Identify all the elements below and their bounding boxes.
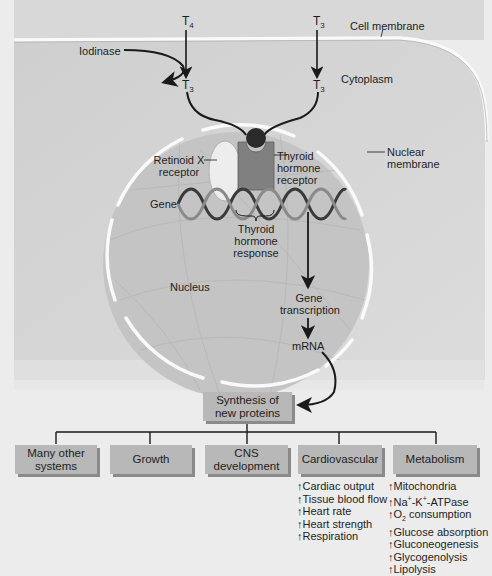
gene-label: Gene (150, 198, 177, 210)
t3-ligand (246, 128, 266, 148)
effect-box-cardiovascular: Cardiovascular (298, 445, 382, 474)
t4-top-label: T4 (182, 14, 194, 30)
gene-transcription-label: Gene transcription (280, 292, 338, 316)
nuclear-membrane-label: Nuclear membrane (387, 146, 440, 170)
synthesis-of-new-proteins-box: Synthesis of new proteins (203, 392, 292, 421)
effect-item: ↑Cardiac output (297, 480, 387, 493)
thyroid-hormone-receptor-label: Thyroid hormone receptor (277, 150, 320, 186)
effect-item: ↑Gluconeogenesis (388, 538, 488, 551)
nucleus-label: Nucleus (170, 281, 210, 293)
effect-box-cns-development: CNSdevelopment (205, 445, 288, 474)
thyroid-hormone-response-label: Thyroid hormone response (228, 223, 284, 259)
effect-box-metabolism: Metabolism (393, 445, 477, 474)
effect-item: ↑Glycogenolysis (388, 551, 488, 564)
mrna-label: mRNA (292, 340, 324, 352)
retinoid-x-receptor-label: Retinoid X receptor (152, 154, 206, 178)
t3-left-label: T3 (182, 78, 194, 94)
effect-box-many-other-systems: Many othersystems (15, 445, 97, 474)
effect-box-growth: Growth (110, 445, 192, 474)
cell-membrane-label: Cell membrane (350, 20, 425, 32)
effect-item: ↑Lipolysis (388, 563, 488, 576)
effect-item: ↑Na+-K+-ATPase (388, 493, 488, 508)
effect-item: ↑Heart rate (297, 505, 387, 518)
effect-item: ↑Heart strength (297, 518, 387, 531)
metabolism-effects-list: ↑Mitochondria ↑Na+-K+-ATPase ↑O2 consump… (388, 480, 488, 576)
effect-item: ↑O2 consumption (388, 508, 488, 526)
effect-item: ↑Respiration (297, 530, 387, 543)
iodinase-label: Iodinase (79, 45, 121, 57)
cytoplasm-label: Cytoplasm (341, 73, 393, 85)
effect-item: ↑Glucose absorption (388, 526, 488, 539)
t3-top-label: T3 (313, 14, 325, 30)
effect-item: ↑Tissue blood flow (297, 493, 387, 506)
cardiovascular-effects-list: ↑Cardiac output ↑Tissue blood flow ↑Hear… (297, 480, 387, 543)
t3-right-label: T3 (313, 78, 325, 94)
effect-item: ↑Mitochondria (388, 480, 488, 493)
